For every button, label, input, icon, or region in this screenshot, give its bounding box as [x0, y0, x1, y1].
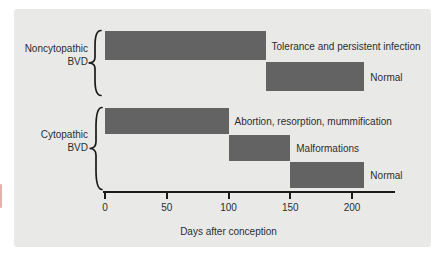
x-axis-tick-label: 200 [337, 202, 367, 213]
x-axis-tick [228, 193, 230, 199]
x-axis-tick [351, 193, 353, 199]
scan-edge-artifact [0, 184, 2, 208]
x-axis-tick [104, 193, 106, 199]
x-axis-tick-label: 50 [152, 202, 182, 213]
figure-canvas: Tolerance and persistent infectionNormal… [0, 0, 441, 261]
x-axis-tick [166, 193, 168, 199]
x-axis-tick-label: 0 [90, 202, 120, 213]
x-axis-tick-label: 150 [275, 202, 305, 213]
x-axis-tick-label: 100 [214, 202, 244, 213]
x-axis: 050100150200 Days after conception [0, 0, 441, 261]
x-axis-title: Days after conception [105, 226, 352, 237]
x-axis-tick [289, 193, 291, 199]
